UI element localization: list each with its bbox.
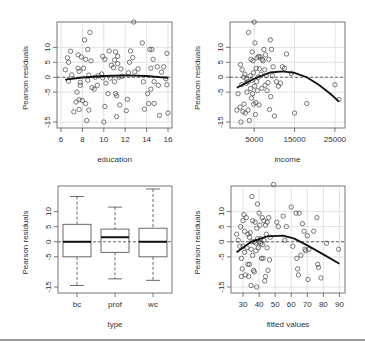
data-point <box>151 57 155 61</box>
data-point <box>266 268 270 272</box>
data-point <box>253 41 257 45</box>
data-point <box>116 54 120 58</box>
x-tick-label: 50 <box>271 300 280 309</box>
data-point <box>267 107 271 111</box>
data-point <box>87 108 91 112</box>
y-tick-label: -15 <box>216 116 225 128</box>
data-point <box>119 67 123 71</box>
data-point <box>246 30 250 34</box>
data-point <box>254 80 258 84</box>
x-tick-label: 25000 <box>324 135 347 144</box>
data-point <box>83 101 87 105</box>
x-tick-label: 5000 <box>245 135 263 144</box>
y-tick-label: 5 <box>43 60 52 65</box>
panel-income: -15-5051050001500025000incomePearson res… <box>193 20 347 164</box>
data-point <box>254 249 258 253</box>
data-point <box>281 214 285 218</box>
data-point <box>147 101 151 105</box>
data-point <box>149 66 153 70</box>
data-point <box>263 83 267 87</box>
data-point <box>238 63 242 67</box>
data-point <box>76 66 80 70</box>
data-point <box>316 265 320 269</box>
data-point <box>76 53 80 57</box>
y-tick-label: 0 <box>217 239 226 244</box>
x-tick-label: 40 <box>255 300 264 309</box>
data-point <box>336 247 340 251</box>
y-tick-label: 5 <box>217 224 226 229</box>
y-tick-label: -5 <box>44 253 53 261</box>
data-point <box>271 65 275 69</box>
x-tick-label: 70 <box>303 300 312 309</box>
data-point <box>157 113 161 117</box>
data-point <box>140 41 144 45</box>
data-point <box>265 246 269 250</box>
y-tick-label: 10 <box>43 42 52 51</box>
x-axis-label: education <box>97 155 132 164</box>
data-point <box>65 56 69 60</box>
y-tick-label: 5 <box>44 224 53 229</box>
data-point <box>83 57 87 61</box>
data-point <box>304 101 308 105</box>
data-point <box>162 65 166 69</box>
data-point <box>88 30 92 34</box>
y-tick-label: 10 <box>216 42 225 51</box>
data-point <box>242 102 246 106</box>
data-point <box>242 212 246 216</box>
data-point <box>86 47 90 51</box>
data-point <box>267 57 271 61</box>
x-axis-label: income <box>275 155 301 164</box>
data-point <box>256 246 260 250</box>
data-point <box>128 49 132 53</box>
data-point <box>300 221 304 225</box>
x-tick-label: 90 <box>335 300 344 309</box>
data-point <box>269 94 273 98</box>
y-tick-label: -5 <box>217 253 226 261</box>
data-point <box>263 274 267 278</box>
data-point <box>136 67 140 71</box>
data-point <box>252 270 256 274</box>
data-point <box>240 68 244 72</box>
data-point <box>125 97 129 101</box>
y-tick-label: -15 <box>44 281 53 293</box>
data-point <box>249 96 253 100</box>
data-point <box>63 68 67 72</box>
y-tick-label: 5 <box>216 60 225 65</box>
data-point <box>118 103 122 107</box>
data-point <box>112 58 116 62</box>
plot-frame <box>231 186 345 293</box>
data-point <box>262 47 266 51</box>
data-point <box>72 110 76 114</box>
data-point <box>244 215 248 219</box>
y-tick-label: -15 <box>217 281 226 293</box>
data-point <box>263 53 267 57</box>
data-point <box>295 267 299 271</box>
data-point <box>248 86 252 90</box>
y-axis-label: Pearson residuals <box>193 210 202 274</box>
data-point <box>267 258 271 262</box>
x-axis-label: type <box>107 320 123 329</box>
data-point <box>266 80 270 84</box>
x-tick-label: 80 <box>319 300 328 309</box>
data-point <box>249 247 253 251</box>
data-point <box>70 73 74 77</box>
data-point <box>284 52 288 56</box>
data-point <box>77 107 81 111</box>
x-tick-label: wc <box>147 300 158 309</box>
panel-fitted-values: -15-5051030405060708090fitted valuesPear… <box>193 182 345 329</box>
data-point <box>246 108 250 112</box>
x-tick-label: bc <box>73 300 81 309</box>
x-tick-label: 14 <box>142 135 151 144</box>
x-tick-label: 10 <box>99 135 108 144</box>
data-point <box>149 87 153 91</box>
data-point <box>296 273 300 277</box>
data-point <box>68 49 72 53</box>
data-point <box>311 229 315 233</box>
data-point <box>319 276 323 280</box>
x-tick-label: 15000 <box>283 135 306 144</box>
data-point <box>306 277 310 281</box>
box-bc <box>63 224 91 257</box>
data-point <box>78 83 82 87</box>
y-tick-label: 10 <box>217 207 226 216</box>
panel-education: -15-505106810121416educationPearson resi… <box>21 20 173 164</box>
